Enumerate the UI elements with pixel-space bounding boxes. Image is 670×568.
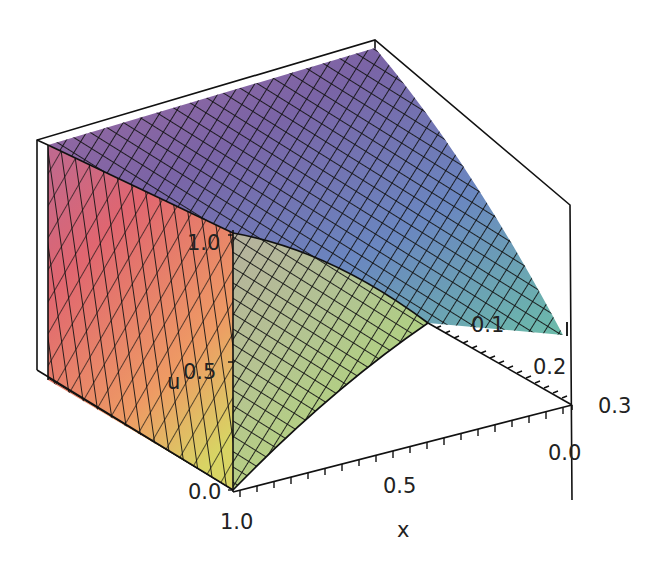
x-tick-0-5: 0.5 (383, 476, 416, 497)
t-tick-0-3: 0.3 (598, 396, 631, 417)
x-axis-label: x (397, 520, 409, 541)
x-tick-0-0: 0.0 (548, 443, 581, 464)
u-tick-0-0: 0.0 (188, 482, 221, 503)
u-tick-0-5: 0.5 (183, 362, 216, 383)
surface-plot (0, 0, 670, 568)
x-tick-1-0: 1.0 (220, 512, 253, 533)
u-axis-label: u (167, 372, 180, 393)
t-tick-0-1: 0.1 (471, 315, 504, 336)
t-tick-0-2: 0.2 (533, 357, 566, 378)
t-axis-label (566, 322, 574, 336)
u-tick-1-0: 1.0 (187, 233, 220, 254)
